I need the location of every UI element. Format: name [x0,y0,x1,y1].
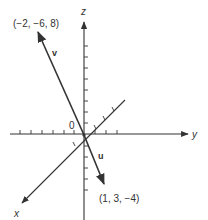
vector-u-endpoint-label: (1, 3, −4) [99,193,139,204]
vector-v-label: v [52,48,57,58]
vector-v-arrow [38,32,84,135]
x-axis [22,100,125,203]
z-axis-label: z [80,6,86,17]
z-axis-ticks [84,46,88,190]
origin-label: 0 [69,120,75,131]
x-axis-label: x [13,208,20,219]
x-axis-ticks [73,107,114,146]
origin-point [82,133,85,136]
y-axis [10,130,188,134]
vector-diagram: z y x 0 (−2, −6, 8) v u (1, 3, −4) [0,0,208,220]
vector-v-endpoint-label: (−2, −6, 8) [13,18,59,29]
z-axis [84,22,88,220]
y-axis-label: y [191,129,198,140]
vector-u-label: u [98,151,104,161]
